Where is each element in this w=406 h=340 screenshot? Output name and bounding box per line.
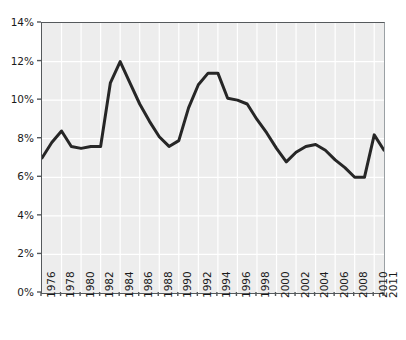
x-tick-label: 1998 — [260, 271, 271, 298]
x-tick-label: 1976 — [46, 271, 57, 298]
x-tick-label: 1992 — [202, 271, 213, 298]
x-tick-label: 2002 — [300, 271, 311, 298]
x-tick-label: 2008 — [358, 271, 369, 298]
x-tick-label: 1980 — [85, 271, 96, 298]
x-tick-label: 1982 — [104, 271, 115, 298]
x-tick-label: 1988 — [163, 271, 174, 298]
x-axis-labels: 1976197819801982198419861988199019921994… — [0, 0, 406, 340]
x-tick-label: 1986 — [143, 271, 154, 298]
x-tick-label: 2006 — [339, 271, 350, 298]
x-tick-label: 1994 — [221, 271, 232, 298]
x-tick-label: 2000 — [280, 271, 291, 298]
x-tick-label: 1990 — [182, 271, 193, 298]
x-tick-label: 2011 — [388, 271, 399, 298]
x-tick-label: 2004 — [319, 271, 330, 298]
x-tick-label: 1984 — [124, 271, 135, 298]
x-tick-label: 1996 — [241, 271, 252, 298]
x-tick-label: 1978 — [65, 271, 76, 298]
line-chart: 0%2%4%6%8%10%12%14% 19761978198019821984… — [0, 0, 406, 340]
